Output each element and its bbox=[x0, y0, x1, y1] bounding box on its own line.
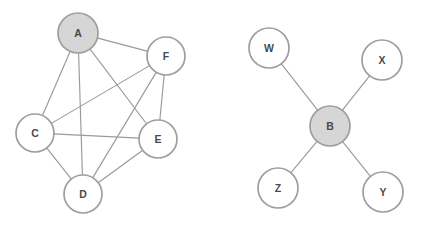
node-c[interactable]: C bbox=[16, 114, 54, 152]
node-x[interactable]: X bbox=[362, 40, 402, 80]
node-z[interactable]: Z bbox=[258, 168, 298, 208]
edge-b-x bbox=[342, 75, 370, 110]
graph-canvas: AFCEDWXBZY bbox=[0, 0, 422, 225]
node-b[interactable]: B bbox=[310, 106, 350, 146]
node-circle-y[interactable] bbox=[363, 172, 403, 212]
node-circle-w[interactable] bbox=[249, 28, 289, 68]
node-circle-z[interactable] bbox=[258, 168, 298, 208]
edge-c-f bbox=[51, 65, 150, 123]
node-circle-d[interactable] bbox=[64, 175, 102, 213]
edge-d-e bbox=[98, 150, 143, 183]
node-a[interactable]: A bbox=[58, 13, 98, 53]
node-circle-f[interactable] bbox=[147, 37, 185, 75]
edge-b-z bbox=[291, 141, 318, 173]
node-circle-b[interactable] bbox=[310, 106, 350, 146]
edge-b-w bbox=[281, 63, 318, 110]
edge-a-d bbox=[79, 52, 83, 175]
figure-root: AFCEDWXBZY bbox=[0, 0, 422, 225]
node-w[interactable]: W bbox=[249, 28, 289, 68]
node-f[interactable]: F bbox=[147, 37, 185, 75]
dense-graph-nodes: AFCED bbox=[16, 13, 185, 213]
node-d[interactable]: D bbox=[64, 175, 102, 213]
edge-a-f bbox=[97, 38, 148, 51]
node-circle-c[interactable] bbox=[16, 114, 54, 152]
edge-b-y bbox=[342, 141, 371, 177]
edge-a-e bbox=[90, 49, 147, 125]
node-e[interactable]: E bbox=[139, 120, 177, 158]
edge-c-d bbox=[46, 148, 71, 180]
edge-e-f bbox=[160, 74, 164, 120]
edge-a-c bbox=[42, 51, 70, 116]
dense-graph-edges bbox=[42, 38, 164, 183]
star-graph-nodes: WXBZY bbox=[249, 28, 403, 212]
node-circle-a[interactable] bbox=[58, 13, 98, 53]
node-circle-x[interactable] bbox=[362, 40, 402, 80]
edge-c-e bbox=[53, 134, 139, 138]
node-y[interactable]: Y bbox=[363, 172, 403, 212]
node-circle-e[interactable] bbox=[139, 120, 177, 158]
nodes-layer: AFCEDWXBZY bbox=[16, 13, 403, 213]
